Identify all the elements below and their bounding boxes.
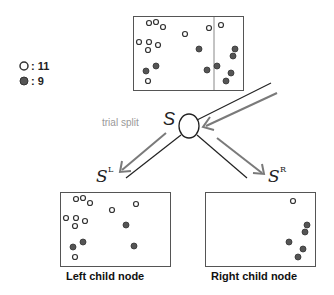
filled-circle-icon (20, 77, 28, 85)
parent-set-label: S (163, 109, 175, 129)
right-child-caption: Right child node (211, 270, 297, 282)
parent-node-box (134, 17, 244, 91)
left-edge-line (126, 135, 181, 178)
left-child-box (61, 193, 171, 267)
split-node (179, 114, 199, 138)
left-set-label: S L (96, 165, 114, 186)
right-arrow (217, 138, 264, 174)
svg-text:R: R (280, 165, 287, 174)
trial-split-label: trial split (102, 117, 139, 128)
legend: : 11 : 9 (20, 60, 49, 87)
decision-tree-split-diagram: : 11 : 9 (0, 0, 334, 295)
legend-hollow-count: : 11 (31, 60, 49, 72)
svg-text:S: S (268, 166, 280, 186)
right-set-label: S R (268, 165, 287, 186)
svg-text:S: S (96, 166, 108, 186)
svg-text:L: L (108, 165, 114, 174)
hollow-circle-icon (20, 62, 28, 70)
right-child-box (206, 193, 316, 267)
left-child-caption: Left child node (66, 270, 144, 282)
legend-filled-count: : 9 (31, 75, 44, 87)
